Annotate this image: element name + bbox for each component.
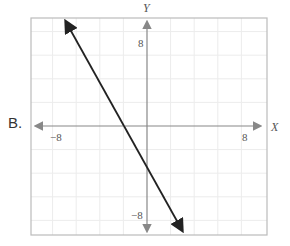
x-tick-neg8: −8 [50, 131, 62, 143]
y-tick-neg8: −8 [131, 209, 143, 221]
x-tick-8: 8 [242, 131, 248, 143]
x-axis-label: X [270, 120, 279, 134]
y-axis-label: Y [143, 1, 151, 15]
graphed-line [66, 22, 124, 126]
coordinate-plane: Y X −8 8 8 −8 [0, 0, 290, 246]
y-tick-8: 8 [138, 37, 144, 49]
